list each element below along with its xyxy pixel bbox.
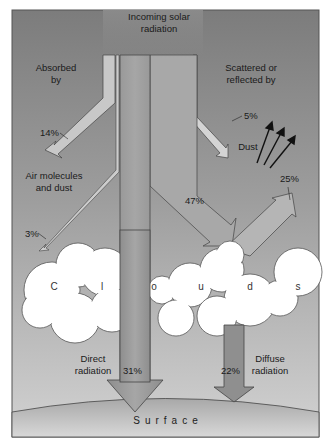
dust-label: Dust [238,141,258,152]
surface-label: Surface [133,415,202,426]
pct-reflected-clouds: 25% [280,173,300,184]
diffuse-radiation-label-2: radiation [252,365,288,376]
air-molecules-label-1: Air molecules [25,170,82,181]
pct-absorbed-clouds: 3% [25,228,39,239]
pct-absorbed-air: 14% [40,127,60,138]
cloud-letter-c: C [50,281,57,292]
absorbed-by-label-1: Absorbed [36,62,77,73]
pct-direct: 31% [123,365,143,376]
cloud-letter-u: u [198,281,204,292]
cloud-letter-d: d [247,281,253,292]
pct-scattered-dust: 5% [244,110,258,121]
scattered-by-label-1: Scattered or [225,62,277,73]
cloud-letter-o: o [151,281,157,292]
diffuse-radiation-label-1: Diffuse [255,353,284,364]
absorbed-by-label-2: by [51,74,61,85]
pct-diffuse: 22% [221,365,241,376]
direct-beam-through-clouds [120,230,150,382]
direct-radiation-label-1: Direct [81,353,106,364]
cloud-letter-s: s [296,281,301,292]
cloud-letter-l: l [101,281,103,292]
direct-radiation-label-2: radiation [75,365,111,376]
solar-radiation-diagram: Incoming solar radiation Absorbed by Sca… [0,0,331,447]
pct-to-clouds: 47% [185,195,205,206]
air-molecules-label-2: and dust [36,182,73,193]
scattered-by-label-2: reflected by [226,74,275,85]
title-line-2: radiation [141,23,177,34]
title-line-1: Incoming solar [128,11,190,22]
